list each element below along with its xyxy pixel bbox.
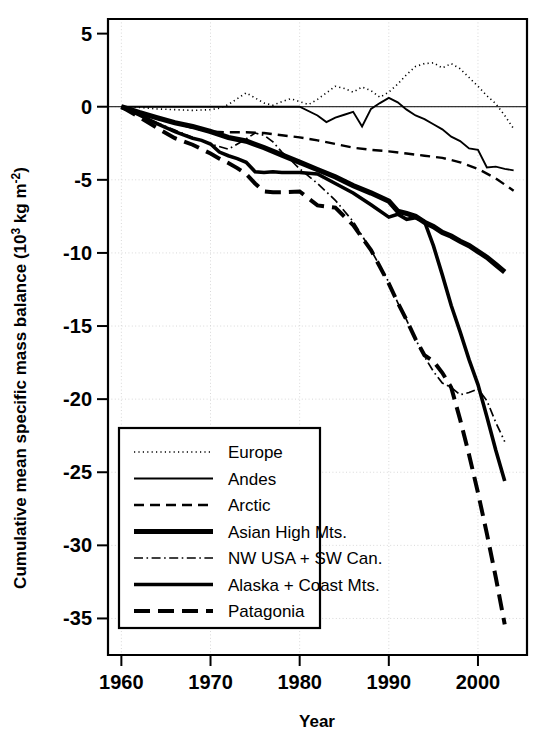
y-tick-label: -10 [63, 242, 92, 264]
y-tick-label: -35 [63, 607, 92, 629]
y-tick-label: 0 [81, 96, 92, 118]
legend-label: Europe [228, 443, 283, 462]
mass-balance-line-chart: 19601970198019902000 50-5-10-15-20-25-30… [0, 0, 550, 743]
y-tick-label: -15 [63, 315, 92, 337]
x-tick-label: 1990 [367, 671, 412, 693]
x-tick-label: 1970 [188, 671, 233, 693]
legend-label: Alaska + Coast Mts. [228, 576, 380, 595]
legend-label: NW USA + SW Can. [228, 549, 382, 568]
x-tick-label: 2000 [456, 671, 501, 693]
x-axis-title: Year [299, 712, 335, 731]
legend-label: Patagonia [228, 602, 305, 621]
y-axis-title-mid: kg m [11, 183, 30, 227]
y-tick-label: -5 [74, 169, 92, 191]
y-tick-label: -25 [63, 461, 92, 483]
y-tick-label: -30 [63, 534, 92, 556]
y-tick-label: -20 [63, 388, 92, 410]
y-axis-title-suffix: ) [11, 167, 30, 173]
y-axis-title-prefix: Cumulative mean specific mass balance (1… [11, 235, 30, 589]
x-tick-label: 1960 [99, 671, 144, 693]
chart-figure: 19601970198019902000 50-5-10-15-20-25-30… [0, 0, 550, 743]
legend-label: Andes [228, 470, 276, 489]
y-axis-title-sup-minus2: -2 [9, 172, 23, 183]
x-tick-label: 1980 [277, 671, 322, 693]
y-tick-label: 5 [81, 23, 92, 45]
legend-label: Arctic [228, 496, 271, 515]
legend-label: Asian High Mts. [228, 523, 347, 542]
